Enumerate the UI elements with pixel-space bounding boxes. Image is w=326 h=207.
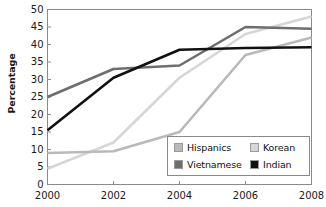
y-tick-label: 20 xyxy=(22,110,44,120)
legend-item-indian: Indian xyxy=(250,159,316,170)
x-tick-label: 2000 xyxy=(28,191,68,201)
legend-label-vietnamese: Vietnamese xyxy=(187,159,242,170)
legend-label-korean: Korean xyxy=(263,142,295,153)
y-tick-label: 0 xyxy=(22,180,44,190)
legend-swatch-vietnamese xyxy=(174,160,183,169)
y-tick-label: 25 xyxy=(22,92,44,102)
y-tick-label: 15 xyxy=(22,127,44,137)
x-tick-label: 2002 xyxy=(94,191,134,201)
line-chart: Percentage 05101520253035404550 20002002… xyxy=(0,0,326,207)
y-tick-label: 40 xyxy=(22,40,44,50)
legend-swatch-hispanics xyxy=(174,143,183,152)
x-tick-label: 2008 xyxy=(292,191,326,201)
x-tick-label: 2004 xyxy=(160,191,200,201)
legend-label-hispanics: Hispanics xyxy=(187,142,231,153)
y-axis-title: Percentage xyxy=(6,49,17,119)
y-tick-label: 10 xyxy=(22,145,44,155)
y-tick-label: 30 xyxy=(22,75,44,85)
legend-item-hispanics: Hispanics xyxy=(174,142,250,153)
legend-item-korean: Korean xyxy=(250,142,316,153)
y-tick-label: 5 xyxy=(22,162,44,172)
legend-label-indian: Indian xyxy=(263,159,291,170)
legend-swatch-indian xyxy=(250,160,259,169)
y-tick-label: 45 xyxy=(22,22,44,32)
y-tick-label: 50 xyxy=(22,5,44,15)
legend: Hispanics Korean Vietnamese Indian xyxy=(167,136,310,176)
x-tick-label: 2006 xyxy=(226,191,266,201)
legend-item-vietnamese: Vietnamese xyxy=(174,159,250,170)
legend-swatch-korean xyxy=(250,143,259,152)
y-tick-label: 35 xyxy=(22,57,44,67)
